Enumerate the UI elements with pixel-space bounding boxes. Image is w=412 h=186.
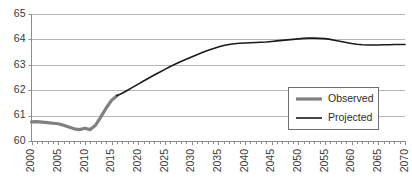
- y-tick-label: 62: [14, 83, 26, 95]
- x-tick-label: 2045: [264, 149, 276, 173]
- x-tick-label: 2015: [104, 149, 116, 173]
- x-tick-label: 2060: [344, 149, 356, 173]
- x-tick-label: 2040: [238, 149, 250, 173]
- x-tick-label: 2065: [371, 149, 383, 173]
- x-tick-label: 2020: [131, 149, 143, 173]
- x-tick-label: 2070: [398, 149, 410, 173]
- chart-legend: ObservedProjected: [289, 88, 379, 130]
- x-tick-label: 2030: [184, 149, 196, 173]
- y-tick-label: 60: [14, 134, 26, 146]
- y-tick-label: 64: [14, 32, 26, 44]
- x-tick-label: 2010: [78, 149, 90, 173]
- x-tick-label: 2025: [158, 149, 170, 173]
- legend-label-observed: Observed: [328, 92, 374, 104]
- legend-label-projected: Projected: [328, 111, 373, 123]
- x-tick-label: 2005: [51, 149, 63, 173]
- chart-canvas: 606162636465 200020052010201520202025203…: [0, 0, 412, 186]
- y-tick-label: 65: [14, 7, 26, 19]
- y-tick-label: 61: [14, 108, 26, 120]
- x-axis-tick-labels: 2000200520102015202020252030203520402045…: [24, 149, 410, 173]
- x-tick-label: 2055: [318, 149, 330, 173]
- x-tick-label: 2035: [211, 149, 223, 173]
- line-chart: 606162636465 200020052010201520202025203…: [0, 0, 412, 186]
- x-tick-label: 2000: [24, 149, 36, 173]
- x-tick-label: 2050: [291, 149, 303, 173]
- y-tick-label: 63: [14, 58, 26, 70]
